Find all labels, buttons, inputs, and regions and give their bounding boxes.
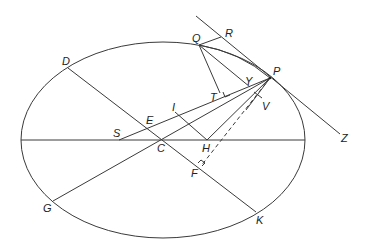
- label-S: S: [113, 127, 121, 139]
- label-Q: Q: [192, 32, 201, 44]
- label-P: P: [273, 65, 281, 77]
- label-H: H: [202, 142, 210, 154]
- label-V: V: [262, 100, 271, 112]
- label-Y: Y: [245, 75, 253, 87]
- label-D: D: [62, 55, 70, 67]
- label-F: F: [191, 167, 199, 179]
- line-HP: [207, 78, 270, 140]
- label-Z: Z: [340, 132, 349, 144]
- arc-QP: [199, 45, 270, 78]
- ellipse-geometry-diagram: Q R D P Y T V I E S C H Z F G K: [0, 0, 370, 249]
- tangent-line-RZ: [196, 16, 340, 134]
- label-T: T: [210, 91, 218, 103]
- label-R: R: [225, 27, 233, 39]
- line-QT: [199, 45, 220, 93]
- line-QR: [199, 37, 221, 45]
- label-G: G: [43, 202, 52, 214]
- label-E: E: [146, 114, 154, 126]
- label-I: I: [172, 101, 175, 113]
- label-K: K: [256, 214, 264, 226]
- label-C: C: [157, 142, 165, 154]
- point-P-dot: [269, 77, 272, 80]
